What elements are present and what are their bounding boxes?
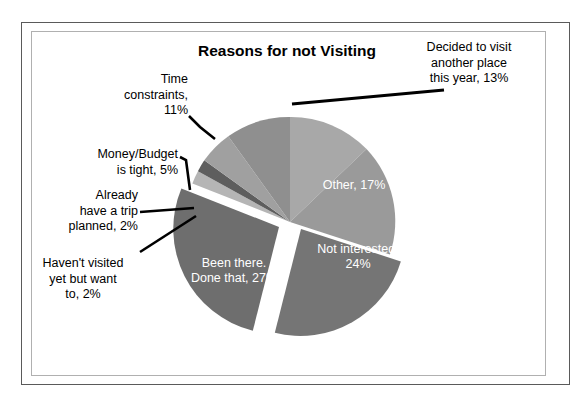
callout-havent-line1: Haven't visited bbox=[28, 256, 138, 272]
callout-decided-line1: Decided to visit bbox=[399, 40, 539, 56]
chart-title: Reasons for not Visiting bbox=[152, 42, 422, 60]
callout-money-line2: is tight, 5% bbox=[48, 163, 178, 179]
callout-trip-line1: Already bbox=[44, 188, 138, 204]
callout-havent-line2: yet but want bbox=[28, 272, 138, 288]
leader-line-decided-to-visit bbox=[292, 90, 444, 104]
callout-havent-visited: Haven't visited yet but want to, 2% bbox=[28, 256, 138, 303]
slice-label-been-there-line1: Been there. bbox=[174, 256, 294, 271]
callout-decided-line2: another place bbox=[399, 56, 539, 72]
leader-line-time-constraints bbox=[189, 116, 215, 139]
leader-line-money-budget bbox=[180, 157, 190, 190]
callout-decided-line3: this year, 13% bbox=[399, 71, 539, 87]
slice-label-other: Other, 17% bbox=[304, 178, 404, 193]
screenshot-root: Reasons for not Visiting Decided to visi… bbox=[0, 0, 585, 408]
callout-time-line2: constraints, bbox=[78, 88, 188, 104]
callout-money-budget: Money/Budget is tight, 5% bbox=[48, 147, 178, 178]
callout-time-line1: Time bbox=[78, 72, 188, 88]
callout-trip-line3: planned, 2% bbox=[44, 219, 138, 235]
slice-label-not-interested-line1: Not interested, bbox=[303, 242, 413, 257]
callout-havent-line3: to, 2% bbox=[28, 287, 138, 303]
callout-time-constraints: Time constraints, 11% bbox=[78, 72, 188, 119]
slice-label-been-there-line2: Done that, 27% bbox=[174, 271, 294, 286]
callout-trip-line2: have a trip bbox=[44, 204, 138, 220]
callout-money-line1: Money/Budget bbox=[48, 147, 178, 163]
callout-time-line3: 11% bbox=[78, 103, 188, 119]
slice-label-been-there: Been there. Done that, 27% bbox=[174, 256, 294, 286]
slice-label-not-interested-line2: 24% bbox=[303, 257, 413, 272]
callout-decided-to-visit: Decided to visit another place this year… bbox=[399, 40, 539, 87]
callout-already-have-trip: Already have a trip planned, 2% bbox=[44, 188, 138, 235]
slice-label-not-interested: Not interested, 24% bbox=[303, 242, 413, 272]
